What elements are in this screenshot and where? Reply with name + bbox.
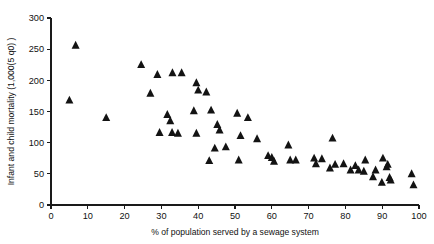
- data-point-marker: [409, 180, 417, 188]
- x-tick-label: 30: [156, 211, 166, 221]
- data-point-marker: [244, 113, 252, 121]
- x-tick-label: 50: [230, 211, 240, 221]
- data-point-marker: [178, 68, 186, 76]
- data-point-marker: [190, 106, 198, 114]
- data-point-marker: [361, 156, 369, 164]
- y-axis-ticks: 050100150200250300: [29, 13, 51, 210]
- data-point-marker: [168, 128, 176, 136]
- data-point-marker: [233, 109, 241, 117]
- data-point-marker: [329, 134, 337, 142]
- data-point-marker: [137, 60, 145, 68]
- data-point-marker: [146, 89, 154, 97]
- x-tick-label: 20: [119, 211, 129, 221]
- y-tick-label: 150: [29, 107, 44, 117]
- data-point-marker: [72, 41, 80, 49]
- y-tick-label: 300: [29, 13, 44, 23]
- data-point-marker: [65, 96, 73, 104]
- x-tick-label: 100: [411, 211, 426, 221]
- x-axis-title: % of population served by a sewage syste…: [151, 227, 319, 237]
- chart-canvas: 050100150200250300 010203040506070809010…: [0, 0, 434, 244]
- data-point-marker: [378, 178, 386, 186]
- y-tick-label: 0: [39, 200, 44, 210]
- axis-spines: [51, 18, 419, 205]
- data-point-marker: [174, 129, 182, 137]
- y-tick-label: 50: [34, 169, 44, 179]
- data-point-marker: [284, 141, 292, 149]
- data-point-marker: [369, 172, 377, 180]
- x-axis-ticks: 0102030405060708090100: [48, 205, 426, 221]
- data-point-marker: [211, 144, 219, 152]
- x-tick-label: 80: [340, 211, 350, 221]
- data-point-marker: [192, 78, 200, 86]
- data-point-marker: [318, 154, 326, 162]
- x-tick-label: 70: [303, 211, 313, 221]
- data-point-marker: [156, 128, 164, 136]
- data-point-marker: [331, 160, 339, 168]
- data-point-marker: [205, 156, 213, 164]
- data-point-marker: [202, 88, 210, 96]
- data-point-marker: [237, 131, 245, 139]
- x-tick-label: 40: [193, 211, 203, 221]
- data-point-marker: [192, 129, 200, 137]
- data-point-marker: [222, 142, 230, 150]
- data-point-marker: [253, 134, 261, 142]
- y-tick-label: 250: [29, 44, 44, 54]
- data-point-marker: [379, 154, 387, 162]
- data-point-marker: [194, 86, 202, 94]
- data-points: [65, 41, 417, 189]
- data-point-marker: [408, 169, 416, 177]
- x-tick-label: 0: [48, 211, 53, 221]
- data-point-marker: [310, 154, 318, 162]
- data-point-marker: [340, 159, 348, 167]
- data-point-marker: [168, 68, 176, 76]
- y-axis-title: Infant and child mortality (1,000(5 q0) …: [6, 38, 16, 186]
- x-tick-label: 10: [83, 211, 93, 221]
- data-point-marker: [207, 106, 215, 114]
- data-point-marker: [102, 113, 110, 121]
- data-point-marker: [213, 120, 221, 128]
- scatter-plot-figure: 050100150200250300 010203040506070809010…: [0, 0, 434, 244]
- data-point-marker: [372, 165, 380, 173]
- data-point-marker: [153, 70, 161, 78]
- data-point-marker: [235, 156, 243, 164]
- data-point-marker: [292, 156, 300, 164]
- y-tick-label: 200: [29, 76, 44, 86]
- x-tick-label: 90: [377, 211, 387, 221]
- y-tick-label: 100: [29, 138, 44, 148]
- x-tick-label: 60: [267, 211, 277, 221]
